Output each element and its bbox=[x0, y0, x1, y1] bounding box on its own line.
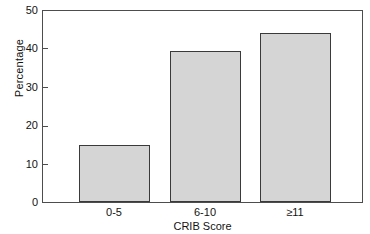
y-tick-label-10: 10 bbox=[16, 159, 38, 170]
y-tick-label-0: 0 bbox=[16, 197, 38, 208]
bar-0-5 bbox=[79, 145, 150, 202]
y-tick-label-30: 30 bbox=[16, 82, 38, 93]
x-tick-label-6-10: 6-10 bbox=[170, 206, 240, 218]
plot-area bbox=[42, 10, 363, 203]
bar-ge-11 bbox=[260, 33, 331, 202]
x-axis-title: CRIB Score bbox=[42, 220, 363, 232]
y-tick-label-40: 40 bbox=[16, 43, 38, 54]
y-axis-tick-labels: 50 40 30 20 10 0 bbox=[14, 0, 38, 234]
bars-layer bbox=[43, 11, 362, 202]
x-tick-label-ge-11: ≥11 bbox=[260, 206, 330, 218]
bar-chart: Percentage 50 40 30 20 10 0 0-5 6-10 ≥11… bbox=[0, 0, 370, 234]
x-tick-label-0-5: 0-5 bbox=[79, 206, 149, 218]
y-tick-label-20: 20 bbox=[16, 120, 38, 131]
y-tick-label-50: 50 bbox=[16, 5, 38, 16]
bar-6-10 bbox=[170, 51, 241, 202]
